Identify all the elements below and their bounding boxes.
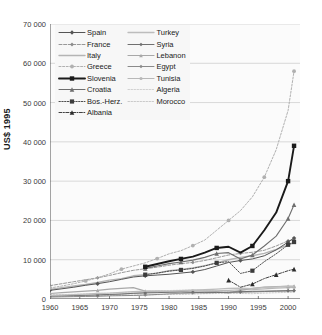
x-tick-2000: 2000: [280, 303, 297, 312]
legend-symbol-egypt: [126, 61, 156, 72]
legend-item-croatia[interactable]: Croatia: [57, 84, 122, 95]
legend-label-croatia: Croatia: [87, 84, 111, 95]
legend-column-left: SpainFranceItalyGreeceSloveniaCroatiaBos…: [57, 27, 122, 118]
legend-label-greece: Greece: [87, 61, 112, 72]
legend-symbol-morocco: [126, 96, 156, 107]
legend-label-turkey: Turkey: [156, 27, 179, 38]
y-axis-ticks: 0 10 000 20 000 30 000 40 000 50 000 60 …: [0, 0, 46, 335]
chart-legend: SpainFranceItalyGreeceSloveniaCroatiaBos…: [55, 25, 190, 120]
legend-item-spain[interactable]: Spain: [57, 27, 122, 38]
legend-label-lebanon: Lebanon: [156, 50, 185, 61]
x-tick-1960: 1960: [42, 303, 59, 312]
legend-item-egypt[interactable]: Egypt: [126, 61, 185, 72]
legend-label-morocco: Morocco: [156, 96, 185, 107]
legend-item-morocco[interactable]: Morocco: [126, 95, 185, 106]
x-tick-1975: 1975: [131, 303, 148, 312]
legend-symbol-croatia: [57, 84, 87, 95]
y-tick-70000: 70 000: [8, 20, 46, 29]
legend-item-lebanon[interactable]: Lebanon: [126, 50, 185, 61]
legend-item-syria[interactable]: Syria: [126, 38, 185, 49]
y-tick-0: 0: [8, 295, 46, 304]
legend-label-egypt: Egypt: [156, 61, 175, 72]
legend-item-turkey[interactable]: Turkey: [126, 27, 185, 38]
legend-symbol-france: [57, 39, 87, 50]
legend-symbol-greece: [57, 61, 87, 72]
legend-item-italy[interactable]: Italy: [57, 50, 122, 61]
x-tick-1995: 1995: [250, 303, 267, 312]
legend-column-right: TurkeySyriaLebanonEgyptTunisiaAlgeriaMor…: [126, 27, 185, 118]
legend-item-greece[interactable]: Greece: [57, 61, 122, 72]
y-tick-20000: 20 000: [8, 216, 46, 225]
y-tick-60000: 60 000: [8, 59, 46, 68]
x-tick-1970: 1970: [101, 303, 118, 312]
legend-label-tunisia: Tunisia: [156, 73, 180, 84]
legend-label-bosherz: Bos.-Herz.: [87, 96, 122, 107]
y-tick-50000: 50 000: [8, 98, 46, 107]
legend-symbol-bosherz: [57, 96, 87, 107]
x-tick-1990: 1990: [220, 303, 237, 312]
legend-label-spain: Spain: [87, 27, 106, 38]
legend-label-syria: Syria: [156, 39, 173, 50]
legend-symbol-albania: [57, 107, 87, 118]
y-tick-30000: 30 000: [8, 177, 46, 186]
legend-label-italy: Italy: [87, 50, 101, 61]
legend-symbol-syria: [126, 39, 156, 50]
legend-item-bosherz[interactable]: Bos.-Herz.: [57, 95, 122, 106]
legend-item-albania[interactable]: Albania: [57, 107, 122, 118]
x-tick-1965: 1965: [71, 303, 88, 312]
legend-item-algeria[interactable]: Algeria: [126, 84, 185, 95]
legend-item-slovenia[interactable]: Slovenia: [57, 73, 122, 84]
y-tick-10000: 10 000: [8, 255, 46, 264]
chart-root: US$ 1995 0 10 000 20 000 30 000 40 000 5…: [0, 0, 322, 335]
legend-label-albania: Albania: [87, 107, 112, 118]
legend-item-france[interactable]: France: [57, 38, 122, 49]
legend-symbol-algeria: [126, 84, 156, 95]
legend-label-algeria: Algeria: [156, 84, 179, 95]
legend-label-france: France: [87, 39, 110, 50]
y-tick-40000: 40 000: [8, 137, 46, 146]
legend-label-slovenia: Slovenia: [87, 73, 116, 84]
legend-symbol-lebanon: [126, 50, 156, 61]
legend-symbol-turkey: [126, 27, 156, 38]
x-tick-1980: 1980: [161, 303, 178, 312]
legend-symbol-italy: [57, 50, 87, 61]
legend-item-tunisia[interactable]: Tunisia: [126, 73, 185, 84]
legend-symbol-slovenia: [57, 73, 87, 84]
x-tick-1985: 1985: [190, 303, 207, 312]
legend-symbol-spain: [57, 27, 87, 38]
legend-symbol-tunisia: [126, 73, 156, 84]
